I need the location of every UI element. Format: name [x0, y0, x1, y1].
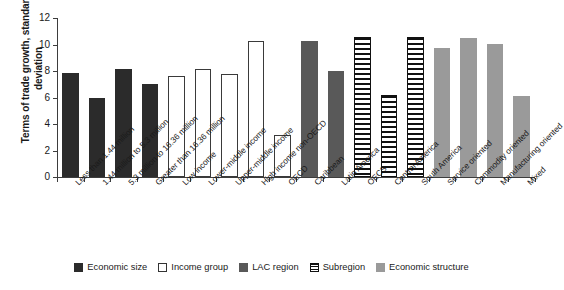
y-axis-tick-label: 4 [26, 117, 50, 130]
y-axis-tick-mark [53, 124, 57, 125]
legend-swatch-icon [239, 263, 248, 272]
y-axis-tick-mark [53, 98, 57, 99]
y-axis-tick-mark [53, 151, 57, 152]
legend-item-income-group[interactable]: Income group [158, 262, 228, 272]
y-axis-tick-mark [53, 45, 57, 46]
legend-item-economic-structure[interactable]: Economic structure [376, 262, 469, 272]
y-axis-tick-label: 0 [26, 170, 50, 183]
x-axis-labels: Less than 1.44 million1.44 million to 5.… [57, 180, 543, 252]
y-axis-tick-label: 6 [26, 91, 50, 104]
y-axis-tick-mark [53, 71, 57, 72]
legend-item-economic-size[interactable]: Economic size [74, 262, 147, 272]
legend-label: Subregion [323, 262, 365, 272]
legend-label: Economic size [87, 262, 147, 272]
y-axis-tick-label: 2 [26, 144, 50, 157]
y-axis-tick-label: 8 [26, 64, 50, 77]
legend-swatch-icon [310, 263, 319, 272]
legend-item-subregion[interactable]: Subregion [310, 262, 365, 272]
y-axis-tick-label: 12 [26, 11, 50, 24]
legend-label: Economic structure [389, 262, 469, 272]
legend-label: Income group [171, 262, 228, 272]
y-axis-line [57, 18, 58, 178]
legend-label: LAC region [252, 262, 299, 272]
y-axis-tick-label: 10 [26, 38, 50, 51]
y-axis-tick-mark [53, 18, 57, 19]
legend-swatch-icon [74, 263, 83, 272]
chart-legend: Economic sizeIncome groupLAC regionSubre… [0, 262, 543, 272]
bar [301, 41, 318, 177]
legend-swatch-icon [158, 263, 167, 272]
legend-item-lac-region[interactable]: LAC region [239, 262, 299, 272]
legend-swatch-icon [376, 263, 385, 272]
bar [62, 73, 79, 177]
